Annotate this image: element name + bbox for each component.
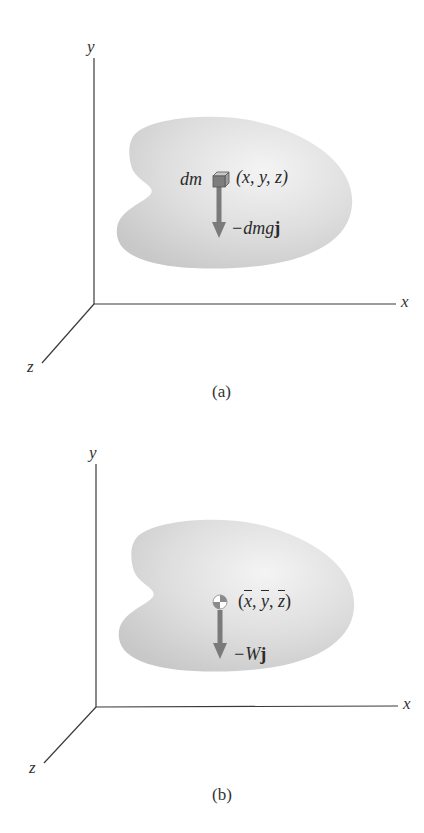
separator: , [269, 591, 278, 611]
y-axis-label: y [87, 38, 95, 55]
z-axis-label: z [29, 759, 36, 776]
y-axis-label: y [89, 444, 97, 461]
center-of-gravity-icon [213, 595, 227, 609]
z-axis-line [44, 707, 96, 763]
panel-a: y x z dm (x, y, z) −dmgj (a) [0, 0, 424, 420]
paren-close: ) [285, 591, 291, 611]
force-label: −dmgj [231, 219, 280, 237]
x-axis-label: x [403, 695, 411, 712]
diagram-a-graphics [0, 0, 424, 420]
force-label-prefix: −W [233, 644, 260, 664]
y-bar: y [261, 591, 269, 611]
caption-b: (b) [212, 786, 232, 803]
z-axis-line [42, 304, 94, 363]
force-label-unit-vector: j [274, 218, 280, 238]
z-bar: z [278, 591, 285, 611]
centroid-position-label: (x, y, z) [238, 592, 291, 610]
x-bar: x [244, 591, 252, 611]
z-axis-label: z [27, 358, 34, 375]
mass-element-cube-icon [213, 172, 229, 187]
separator: , [252, 591, 261, 611]
diagram-b-graphics [0, 420, 424, 833]
x-axis-line [96, 706, 398, 707]
rigid-body-shape [117, 117, 352, 269]
force-label-prefix: −dmg [231, 218, 274, 238]
mass-element-label: dm [180, 170, 202, 188]
force-label-unit-vector: j [260, 644, 266, 664]
panel-b: y x z (x, y, z) −Wj (b) [0, 420, 424, 833]
x-axis-label: x [401, 293, 409, 310]
caption-a: (a) [212, 383, 231, 400]
position-label: (x, y, z) [236, 168, 288, 186]
weight-force-label: −Wj [233, 645, 266, 663]
